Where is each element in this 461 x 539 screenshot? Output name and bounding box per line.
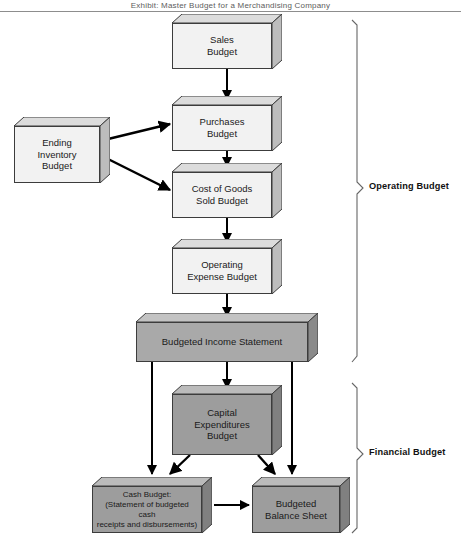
header-divider-rule [0,11,461,12]
node-cash-budget[interactable]: Cash Budget:(Statement of budgeted cashr… [92,477,212,533]
running-header: Exhibit: Master Budget for a Merchandisi… [0,0,461,11]
bracket-operating-budget [352,20,363,362]
node-label: OperatingExpense Budget [184,259,260,283]
node-label: SalesBudget [204,34,240,58]
node-purchases-budget[interactable]: PurchasesBudget [172,96,282,151]
group-label-operating-budget: Operating Budget [369,181,449,191]
node-ending-inventory-budget[interactable]: EndingInventoryBudget [14,117,110,183]
node-label: Cost of GoodsSold Budget [189,183,256,207]
node-label: Cash Budget:(Statement of budgeted cashr… [93,490,201,530]
node-label: BudgetedBalance Sheet [262,498,330,522]
master-budget-diagram: Exhibit: Master Budget for a Merchandisi… [0,0,461,539]
node-label: CapitalExpendituresBudget [191,407,252,443]
node-budgeted-income-statement[interactable]: Budgeted Income Statement [136,313,318,362]
bracket-financial-budget [352,383,363,533]
edge-capital-to-cash [170,455,190,474]
node-capital-expenditures-budget[interactable]: CapitalExpendituresBudget [172,385,282,455]
node-label: PurchasesBudget [197,116,248,140]
node-label: Budgeted Income Statement [159,336,285,348]
node-operating-expense-budget[interactable]: OperatingExpense Budget [172,239,282,294]
edge-endinv-to-cogs [104,157,170,190]
node-budgeted-balance-sheet[interactable]: BudgetedBalance Sheet [252,477,350,533]
group-label-financial-budget: Financial Budget [369,447,445,457]
node-cost-of-goods-sold-budget[interactable]: Cost of GoodsSold Budget [172,163,282,218]
node-label: EndingInventoryBudget [34,137,79,173]
node-sales-budget[interactable]: SalesBudget [172,14,282,69]
edge-endinv-to-purchases [104,124,170,140]
edge-capital-to-balance [258,455,275,474]
